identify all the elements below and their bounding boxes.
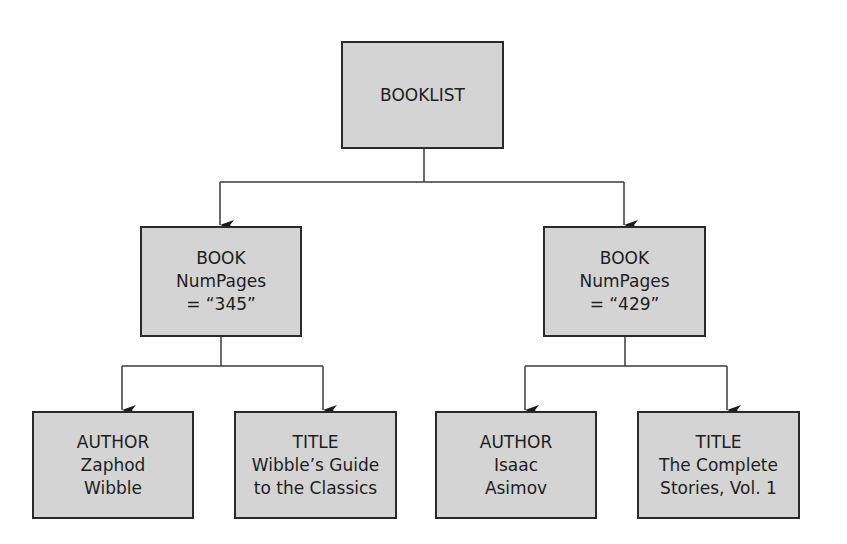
node-text: The Complete: [659, 454, 778, 477]
node-text: Zaphod: [81, 454, 146, 477]
author-node-zaphod-wibble: AUTHOR Zaphod Wibble: [32, 411, 194, 519]
node-attribute-name: NumPages: [176, 270, 266, 293]
title-node-wibbles-guide: TITLE Wibble’s Guide to the Classics: [234, 411, 397, 519]
booklist-tree-diagram: BOOKLIST BOOK NumPages = “345” BOOK NumP…: [0, 0, 847, 544]
author-node-isaac-asimov: AUTHOR Isaac Asimov: [435, 411, 597, 519]
node-label: TITLE: [696, 431, 742, 454]
title-node-complete-stories: TITLE The Complete Stories, Vol. 1: [637, 411, 800, 519]
booklist-node: BOOKLIST: [341, 41, 504, 149]
node-attribute-value: = “345”: [186, 293, 256, 316]
node-text: Stories, Vol. 1: [660, 477, 777, 500]
node-text: Isaac: [494, 454, 538, 477]
node-label: AUTHOR: [480, 431, 552, 454]
node-text: Asimov: [485, 477, 547, 500]
node-label: BOOK: [196, 247, 245, 270]
node-attribute-name: NumPages: [579, 270, 669, 293]
book-node-429: BOOK NumPages = “429”: [543, 226, 706, 337]
node-label: TITLE: [293, 431, 339, 454]
node-text: to the Classics: [254, 477, 377, 500]
node-text: Wibble’s Guide: [252, 454, 380, 477]
node-label: BOOK: [600, 247, 649, 270]
book-node-345: BOOK NumPages = “345”: [140, 226, 302, 337]
node-attribute-value: = “429”: [590, 293, 660, 316]
node-label: BOOKLIST: [380, 84, 465, 107]
node-text: Wibble: [84, 477, 142, 500]
node-label: AUTHOR: [77, 431, 149, 454]
